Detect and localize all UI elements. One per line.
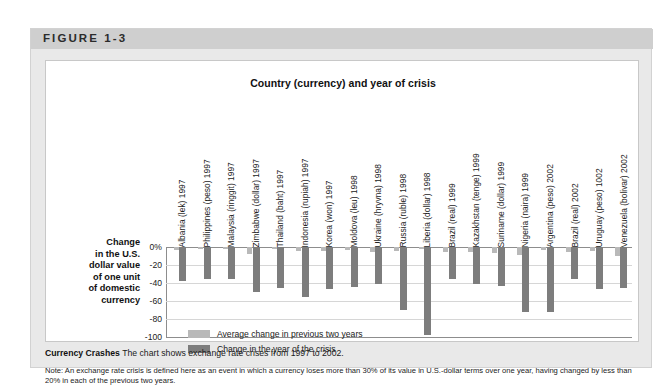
bar-crisis-change xyxy=(620,247,627,288)
figure-note: Note: An exchange rate crisis is defined… xyxy=(45,366,643,386)
bar-crisis-change xyxy=(596,247,603,289)
bar-group xyxy=(264,247,289,337)
bar-group xyxy=(485,247,510,337)
y-axis-tick-label: -100 xyxy=(145,332,162,342)
x-axis-label: Indonesia (rupiah) 1997 xyxy=(300,158,308,247)
y-axis-tick-label: -40 xyxy=(150,278,162,288)
legend-swatch-average-icon xyxy=(188,330,210,338)
y-axis-tick-label: -80 xyxy=(150,314,162,324)
bar-crisis-change xyxy=(498,247,505,286)
y-axis-title-line-3: dollar value xyxy=(68,260,140,272)
bar-crisis-change xyxy=(400,247,407,310)
bar-crisis-change xyxy=(424,247,431,335)
bar-group xyxy=(411,247,436,337)
figure-card: FIGURE 1-3 Country (currency) and year o… xyxy=(30,28,652,368)
bar-group xyxy=(215,247,240,337)
bar-average-change xyxy=(370,247,375,252)
bar-crisis-change xyxy=(179,247,186,281)
bar-average-change xyxy=(296,247,301,251)
x-axis-label: Suriname (dollar) 1999 xyxy=(497,161,505,247)
bar-average-change xyxy=(468,247,473,252)
bar-group xyxy=(509,247,534,337)
bar-crisis-change xyxy=(473,247,480,284)
bar-crisis-change xyxy=(253,247,260,292)
bar-group xyxy=(166,247,191,337)
figure-caption: Currency Crashes The chart shows exchang… xyxy=(45,348,645,359)
figure-number-banner: FIGURE 1-3 xyxy=(31,29,653,49)
chart-panel: Country (currency) and year of crisis Al… xyxy=(45,60,639,342)
caption-lead: Currency Crashes xyxy=(45,348,120,358)
bar-crisis-change xyxy=(302,247,309,297)
x-axis-label: Brazil (real) 1999 xyxy=(447,183,455,247)
bar-average-change xyxy=(541,247,546,250)
x-axis-label: Venezuela (bolivar) 2002 xyxy=(619,154,627,247)
bar-crisis-change xyxy=(571,247,578,279)
bar-group xyxy=(362,247,387,337)
y-axis-title-line-2: in the U.S. xyxy=(68,249,140,261)
bar-average-change xyxy=(223,247,228,249)
bar-crisis-change xyxy=(547,247,554,312)
x-axis-label: Moldova (leu) 1998 xyxy=(349,175,357,247)
y-axis-title-line-5: of domestic xyxy=(68,283,140,295)
bar-crisis-change xyxy=(228,247,235,279)
x-axis-label: Uruguay (peso) 1002 xyxy=(595,168,603,247)
bar-group xyxy=(460,247,485,337)
x-axis-label: Kazakhstan (tenge) 1999 xyxy=(472,153,480,247)
bar-group xyxy=(338,247,363,337)
bar-average-change xyxy=(492,247,497,253)
bar-crisis-change xyxy=(326,247,333,289)
x-axis-label: Liberia (dollar) 1998 xyxy=(423,172,431,247)
bar-average-change xyxy=(394,247,399,251)
bar-average-change xyxy=(247,247,252,254)
x-axis-labels: Albania (lek) 1997Philippines (peso) 199… xyxy=(166,95,632,247)
bar-group xyxy=(240,247,265,337)
y-axis-title-line-1: Change xyxy=(68,237,140,249)
bar-average-change xyxy=(174,247,179,250)
figure-number-label: FIGURE 1-3 xyxy=(43,32,127,44)
bar-crisis-change xyxy=(277,247,284,288)
bar-average-change xyxy=(590,247,595,251)
bar-crisis-change xyxy=(375,247,382,284)
bar-average-change xyxy=(198,247,203,249)
x-axis-label: Philippines (peso) 1997 xyxy=(202,159,210,247)
bar-crisis-change xyxy=(351,247,358,287)
bar-crisis-change xyxy=(204,247,211,279)
bar-average-change xyxy=(517,247,522,255)
x-axis-label: Brazil (real) 2002 xyxy=(570,183,578,247)
x-axis-label: Argentina (peso) 2002 xyxy=(546,164,554,247)
bar-group xyxy=(191,247,216,337)
plot-area: 0%-20-40-60-80-100 xyxy=(166,247,632,337)
legend-label-average: Average change in previous two years xyxy=(217,329,363,339)
bar-group xyxy=(558,247,583,337)
x-axis-label: Zimbabwe (dollar) 1997 xyxy=(251,159,259,247)
y-axis-tick-label: -20 xyxy=(150,260,162,270)
caption-text: The chart shows exchange rate crises fro… xyxy=(122,348,344,358)
bar-average-change xyxy=(443,247,448,252)
x-axis-label: Korea (won) 1997 xyxy=(325,180,333,247)
y-axis-tick-label: 0% xyxy=(150,242,162,252)
bar-average-change xyxy=(566,247,571,252)
bar-group xyxy=(534,247,559,337)
bar-group xyxy=(387,247,412,337)
bar-crisis-change xyxy=(522,247,529,312)
bar-average-change xyxy=(419,247,424,249)
y-axis-tick-label: -60 xyxy=(150,296,162,306)
bar-group xyxy=(313,247,338,337)
bar-group xyxy=(436,247,461,337)
x-axis-label: Nigeria (naira) 1999 xyxy=(521,173,529,247)
x-axis-label: Thailand (baht) 1997 xyxy=(276,169,284,247)
bar-average-change xyxy=(615,247,620,256)
bar-group xyxy=(607,247,632,337)
bar-group xyxy=(583,247,608,337)
bar-group xyxy=(289,247,314,337)
y-axis-title-line-6: currency xyxy=(68,295,140,307)
x-axis-label: Russia (ruble) 1998 xyxy=(398,174,406,247)
x-axis-label: Albania (lek) 1997 xyxy=(178,179,186,247)
bar-average-change xyxy=(345,247,350,250)
chart-title: Country (currency) and year of crisis xyxy=(46,77,640,89)
bar-average-change xyxy=(272,247,277,249)
bar-crisis-change xyxy=(449,247,456,279)
legend-item-average: Average change in previous two years xyxy=(188,327,363,340)
x-axis-label: Ukraine (hryvna) 1998 xyxy=(374,164,382,247)
